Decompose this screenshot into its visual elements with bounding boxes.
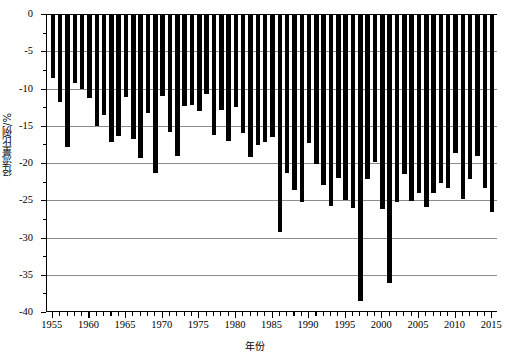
x-minor-tick bbox=[213, 312, 214, 316]
bar bbox=[204, 14, 209, 94]
x-tick-label: 2015 bbox=[481, 319, 502, 331]
x-minor-tick bbox=[469, 312, 470, 316]
x-minor-tick bbox=[74, 312, 75, 316]
bar bbox=[58, 14, 63, 102]
x-major-tick bbox=[162, 312, 163, 318]
x-minor-tick bbox=[440, 312, 441, 316]
x-minor-tick bbox=[359, 312, 360, 316]
bar bbox=[321, 14, 326, 185]
y-tick-label: -15 bbox=[19, 121, 33, 131]
x-minor-tick bbox=[264, 312, 265, 316]
gridline--25 bbox=[47, 200, 497, 201]
bar bbox=[146, 14, 151, 113]
bar bbox=[424, 14, 429, 207]
bar bbox=[475, 14, 480, 156]
x-minor-tick bbox=[176, 312, 177, 316]
x-tick-label: 1990 bbox=[298, 319, 319, 331]
x-major-tick bbox=[272, 312, 273, 318]
bar bbox=[365, 14, 370, 179]
bar bbox=[278, 14, 283, 232]
x-minor-tick bbox=[81, 312, 82, 316]
x-tick-label: 1980 bbox=[224, 319, 245, 331]
bar bbox=[219, 14, 224, 110]
bar bbox=[190, 14, 195, 105]
bar bbox=[256, 14, 261, 145]
x-minor-tick bbox=[169, 312, 170, 316]
x-minor-tick bbox=[367, 312, 368, 316]
x-axis-title: 年份 bbox=[0, 338, 509, 353]
x-minor-tick bbox=[257, 312, 258, 316]
x-major-tick bbox=[455, 312, 456, 318]
x-minor-tick bbox=[279, 312, 280, 316]
bar bbox=[270, 14, 275, 137]
bar bbox=[395, 14, 400, 202]
x-minor-tick bbox=[250, 312, 251, 316]
bar bbox=[461, 14, 466, 199]
bar bbox=[351, 14, 356, 208]
x-minor-tick bbox=[191, 312, 192, 316]
plot-inner bbox=[47, 14, 497, 311]
bar bbox=[73, 14, 78, 83]
bar bbox=[175, 14, 180, 156]
bar bbox=[417, 14, 422, 193]
x-axis-tick-labels: 1955196019651970197519801985199019952000… bbox=[46, 319, 497, 333]
x-minor-tick bbox=[96, 312, 97, 316]
x-minor-tick bbox=[293, 312, 294, 316]
x-tick-label: 1965 bbox=[115, 319, 136, 331]
x-tick-label: 1970 bbox=[151, 319, 172, 331]
y-tick-label: -40 bbox=[19, 307, 33, 317]
x-minor-tick bbox=[411, 312, 412, 316]
y-axis-tick-labels: 0-5-10-15-20-25-30-35-40 bbox=[0, 14, 41, 312]
x-minor-tick bbox=[110, 312, 111, 316]
y-tick-label: -5 bbox=[24, 46, 33, 56]
x-minor-tick bbox=[374, 312, 375, 316]
bar bbox=[387, 14, 392, 283]
bar bbox=[182, 14, 187, 106]
bar bbox=[168, 14, 173, 132]
x-minor-tick bbox=[389, 312, 390, 316]
x-major-tick bbox=[308, 312, 309, 318]
x-tick-label: 2010 bbox=[444, 319, 465, 331]
x-minor-tick bbox=[484, 312, 485, 316]
bar bbox=[241, 14, 246, 133]
bar bbox=[446, 14, 451, 188]
bar bbox=[80, 14, 85, 89]
x-minor-tick bbox=[184, 312, 185, 316]
bar bbox=[234, 14, 239, 107]
bar bbox=[116, 14, 121, 136]
x-major-tick bbox=[125, 312, 126, 318]
bar bbox=[409, 14, 414, 201]
bar bbox=[483, 14, 488, 188]
bar bbox=[124, 14, 129, 97]
bar bbox=[336, 14, 341, 178]
bar bbox=[358, 14, 363, 301]
x-minor-tick bbox=[242, 312, 243, 316]
bar bbox=[263, 14, 268, 142]
gridline--20 bbox=[47, 163, 497, 164]
bar bbox=[95, 14, 100, 126]
bar bbox=[109, 14, 114, 142]
x-minor-tick bbox=[447, 312, 448, 316]
x-minor-tick bbox=[59, 312, 60, 316]
bar bbox=[102, 14, 107, 115]
x-minor-tick bbox=[462, 312, 463, 316]
bar bbox=[431, 14, 436, 193]
x-major-tick bbox=[381, 312, 382, 318]
y-tick-label: -10 bbox=[19, 84, 33, 94]
x-minor-tick bbox=[118, 312, 119, 316]
x-minor-tick bbox=[154, 312, 155, 316]
bar bbox=[453, 14, 458, 153]
x-major-tick bbox=[88, 312, 89, 318]
x-minor-tick bbox=[67, 312, 68, 316]
y-tick-label: -25 bbox=[19, 195, 33, 205]
x-minor-tick bbox=[330, 312, 331, 316]
x-minor-tick bbox=[147, 312, 148, 316]
x-minor-tick bbox=[433, 312, 434, 316]
x-tick-label: 1985 bbox=[261, 319, 282, 331]
x-minor-tick bbox=[286, 312, 287, 316]
bar bbox=[87, 14, 92, 98]
x-major-tick bbox=[235, 312, 236, 318]
bar bbox=[373, 14, 378, 162]
x-major-tick bbox=[491, 312, 492, 318]
x-minor-tick bbox=[477, 312, 478, 316]
